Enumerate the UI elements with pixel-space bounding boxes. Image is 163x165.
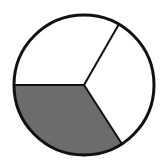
figure-root: Circle divided into three sectors with o… [0,0,163,165]
pie-chart: Circle divided into three sectors with o… [0,0,163,165]
